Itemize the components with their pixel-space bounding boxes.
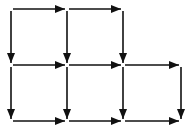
edge-group	[11, 9, 181, 121]
directed-grid-diagram	[0, 0, 187, 128]
